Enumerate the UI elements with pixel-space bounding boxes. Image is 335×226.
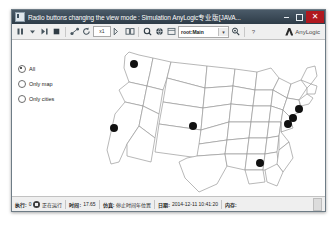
- anylogic-brand: AnyLogic: [285, 28, 322, 36]
- usa-map[interactable]: [67, 46, 319, 197]
- status-separator: [65, 200, 66, 209]
- city-dot: [289, 114, 297, 122]
- close-button[interactable]: ✕: [306, 11, 324, 23]
- status-date: 日期: 2014-12-11 10:41:20: [158, 201, 218, 208]
- view-selector[interactable]: root:Main ▾: [178, 26, 229, 38]
- zoom-fit-button[interactable]: [124, 26, 135, 37]
- city-dot: [110, 124, 118, 132]
- status-time-key: 时间:: [69, 201, 81, 208]
- presentation-canvas: All Only map Only cities: [12, 40, 325, 197]
- panel-button[interactable]: [166, 26, 177, 37]
- status-sim: 仿真: 停止时间年位置: [103, 201, 152, 208]
- status-date-value: 2014-12-11 10:41:20: [172, 201, 218, 207]
- status-run: 执行: 0 正在运行: [15, 201, 62, 208]
- anylogic-brand-label: AnyLogic: [295, 29, 320, 35]
- status-resize-grip[interactable]: [313, 198, 322, 211]
- status-time: 时间: 17.65: [69, 201, 95, 208]
- status-date-key: 日期:: [158, 201, 170, 208]
- status-bar: 执行: 0 正在运行 时间: 17.65 仿真: 停止时间年位置 日期: 201…: [12, 197, 325, 211]
- pause-button[interactable]: [15, 26, 26, 37]
- step-button[interactable]: [39, 26, 50, 37]
- help-button[interactable]: ?: [248, 26, 259, 37]
- run-dropdown[interactable]: [27, 26, 38, 37]
- radio-only-map-label: Only map: [29, 81, 53, 87]
- view-selector-value: root:Main: [181, 28, 204, 36]
- status-separator: [221, 200, 222, 209]
- status-separator: [154, 200, 155, 209]
- city-dot: [189, 122, 197, 130]
- stop-icon[interactable]: [33, 201, 40, 208]
- maximize-button[interactable]: [293, 11, 306, 23]
- status-run-state: 正在运行: [42, 201, 62, 208]
- window-controls: ✕: [280, 11, 324, 23]
- status-memory: 内存:: [225, 201, 239, 208]
- toolbar-separator: [138, 27, 139, 37]
- navigate-root-button[interactable]: [69, 26, 80, 37]
- application-window: Radio buttons changing the view mode : S…: [11, 9, 326, 212]
- radio-only-map-indicator: [18, 80, 26, 88]
- city-dot: [295, 105, 303, 113]
- city-dot: [256, 159, 264, 167]
- radio-all-indicator: [18, 65, 26, 73]
- chevron-down-icon[interactable]: ▾: [218, 28, 228, 36]
- toolbar-separator: [244, 27, 245, 37]
- status-sim-value: 停止时间年位置: [116, 201, 151, 208]
- status-separator: [99, 200, 100, 209]
- zoom-out-button[interactable]: [112, 26, 123, 37]
- window-title: Radio buttons changing the view mode : S…: [28, 13, 280, 22]
- toolbar: x1 root:Main ▾ ? AnyLogic: [12, 24, 325, 40]
- status-run-key: 执行:: [15, 201, 27, 208]
- view-mode-radio-group: All Only map Only cities: [18, 65, 54, 103]
- status-sim-key: 仿真:: [103, 201, 115, 208]
- anylogic-logo-icon: [285, 28, 293, 36]
- anylogic-app-icon: [15, 12, 25, 22]
- zoom-level-field[interactable]: x1: [93, 26, 111, 37]
- refresh-button[interactable]: [81, 26, 92, 37]
- radio-all[interactable]: All: [18, 65, 54, 73]
- title-bar[interactable]: Radio buttons changing the view mode : S…: [12, 10, 325, 24]
- toolbar-separator: [65, 27, 66, 37]
- radio-only-cities-indicator: [18, 95, 26, 103]
- zoom-in-button[interactable]: [142, 26, 153, 37]
- radio-only-cities-label: Only cities: [29, 96, 54, 102]
- city-dot: [130, 60, 138, 68]
- radio-only-map[interactable]: Only map: [18, 80, 54, 88]
- status-run-value: 0: [29, 201, 32, 207]
- stop-button[interactable]: [51, 26, 62, 37]
- globe-button[interactable]: [154, 26, 165, 37]
- locate-button[interactable]: [230, 26, 241, 37]
- radio-only-cities[interactable]: Only cities: [18, 95, 54, 103]
- status-time-value: 17.65: [83, 201, 96, 207]
- minimize-button[interactable]: [280, 11, 293, 23]
- status-memory-key: 内存:: [225, 201, 237, 208]
- radio-all-label: All: [29, 66, 35, 72]
